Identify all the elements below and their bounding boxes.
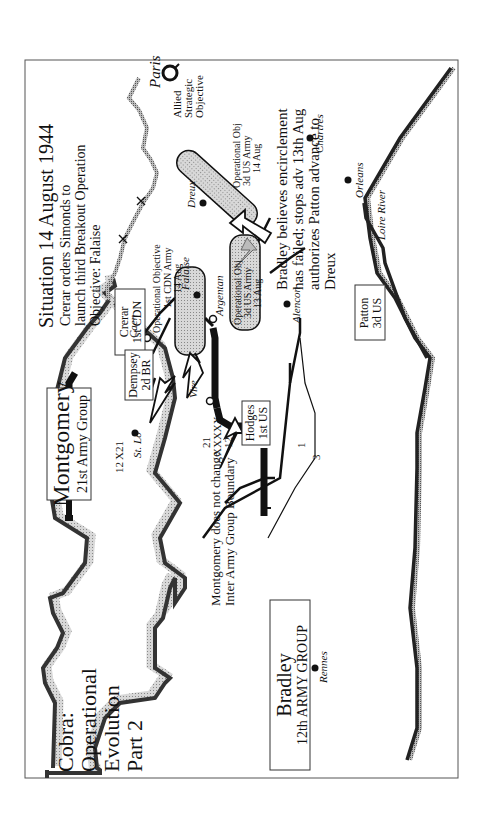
label-orleans: Orleans (353, 163, 365, 198)
svg-text:authorizes Patton advance to: authorizes Patton advance to (306, 118, 322, 290)
svg-text:Bradley: Bradley (273, 653, 296, 716)
svg-text:Cobra:: Cobra: (53, 712, 78, 772)
montgomery-box: Montgomery 21st Army Group (47, 381, 91, 506)
svg-text:Dempsey: Dempsey (126, 352, 140, 397)
label-falaise: Falaise (179, 257, 191, 291)
svg-text:Dreux: Dreux (322, 252, 338, 290)
svg-text:21st Army Group: 21st Army Group (75, 395, 90, 493)
orleans-dot (345, 177, 352, 184)
label-caen: Caen (127, 314, 139, 338)
montgomery-note: Montgomery does not change Inter Army Gr… (208, 451, 237, 606)
svg-text:Inter Army Group Boundary: Inter Army Group Boundary (222, 457, 237, 606)
svg-text:Montgomery: Montgomery (48, 381, 74, 506)
map-canvas: Montgomery 21st Army Group Crerar 1st CD… (0, 0, 483, 821)
svg-text:1st US: 1st US (256, 407, 270, 439)
falaise-dot (194, 292, 201, 299)
svg-text:Patton: Patton (357, 298, 371, 329)
svg-text:3d US: 3d US (370, 298, 384, 328)
svg-text:3: 3 (310, 454, 322, 460)
svg-text:1: 1 (295, 443, 307, 449)
vire-ring (207, 398, 214, 405)
svg-text:12: 12 (222, 437, 234, 448)
label-stlo: St. Lo (131, 432, 143, 458)
svg-text:Situation 14 August 1944: Situation 14 August 1944 (35, 124, 58, 328)
label-argentan: Argentan (213, 275, 225, 317)
label-rennes: Rennes (317, 651, 329, 684)
patton-box: Patton 3d US (355, 285, 385, 340)
svg-text:Crerar orders Simonds to: Crerar orders Simonds to (58, 185, 73, 326)
svg-text:Operational Objective: Operational Objective (151, 244, 162, 333)
label-alencon: Alencon (290, 286, 302, 324)
dempsey-box: Dempsey 2d BR (125, 350, 153, 400)
svg-text:Montgomery does not change: Montgomery does not change (208, 451, 223, 606)
svg-text:Objective: Objective (193, 75, 205, 118)
svg-text:XXXXX: XXXXX (211, 416, 223, 456)
svg-text:Part 2: Part 2 (122, 720, 147, 772)
label-vire: Vire (187, 380, 199, 398)
svg-text:12th ARMY GROUP: 12th ARMY GROUP (295, 625, 310, 745)
label-paris: Paris (147, 55, 163, 89)
svg-text:Evolution: Evolution (99, 685, 124, 772)
svg-text:2d BR: 2d BR (139, 359, 153, 390)
svg-text:Hodges: Hodges (243, 404, 257, 441)
svg-text:21: 21 (113, 441, 125, 452)
svg-text:14 Aug: 14 Aug (251, 144, 262, 173)
svg-text:has failed; stops adv 13th Aug: has failed; stops adv 13th Aug (290, 108, 306, 290)
svg-text:launch third Breakout Operatio: launch third Breakout Operation (73, 144, 88, 326)
dreux-dot (200, 200, 207, 207)
svg-text:Objective: Falaise: Objective: Falaise (88, 225, 103, 326)
bradley-box: Bradley 12th ARMY GROUP (270, 600, 310, 770)
label-dreux: Dreux (185, 181, 197, 209)
svg-text:Operational: Operational (76, 668, 101, 772)
svg-text:12: 12 (113, 462, 125, 473)
label-loire-river: Loire River (375, 189, 387, 241)
hodges-box: Hodges 1st US (242, 401, 270, 445)
svg-text:13 Aug: 13 Aug (252, 279, 263, 308)
svg-text:X: X (113, 452, 125, 460)
svg-text:Bradley believes encirclement: Bradley believes encirclement (274, 108, 290, 290)
